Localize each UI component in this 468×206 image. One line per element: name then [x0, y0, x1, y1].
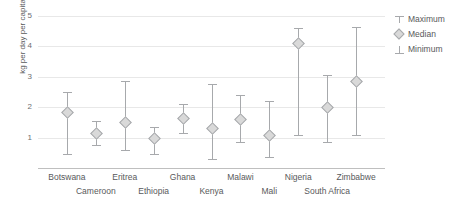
max-cap — [265, 101, 274, 102]
legend-label-maximum: Maximum — [408, 12, 445, 27]
median-marker — [148, 132, 161, 145]
y-axis-tick-label: 5 — [16, 12, 32, 20]
min-cap — [92, 145, 101, 146]
max-cap — [63, 92, 72, 93]
x-axis-label: Malawi — [227, 172, 253, 182]
median-marker — [235, 113, 248, 126]
y-axis-tick-label: 1 — [16, 134, 32, 142]
x-axis-label: Eritrea — [112, 172, 137, 182]
max-cap-icon — [394, 12, 405, 27]
x-axis-label: South Africa — [304, 186, 350, 196]
median-marker — [206, 123, 219, 136]
max-cap — [236, 95, 245, 96]
min-cap — [265, 157, 274, 158]
range-stem — [67, 92, 68, 154]
x-axis-label: Mali — [262, 186, 278, 196]
min-cap — [236, 142, 245, 143]
median-marker — [321, 101, 334, 114]
x-axis-label: Ethiopia — [138, 186, 169, 196]
median-marker — [177, 112, 190, 125]
max-cap — [208, 84, 217, 85]
max-cap — [179, 104, 188, 105]
x-axis-label: Nigeria — [285, 172, 312, 182]
legend-item-median: Median — [394, 27, 468, 42]
median-marker — [119, 117, 132, 130]
series-layer — [38, 16, 385, 168]
max-cap — [294, 28, 303, 29]
min-cap — [352, 135, 361, 136]
min-cap — [208, 159, 217, 160]
median-marker — [263, 129, 276, 142]
min-cap — [150, 154, 159, 155]
min-cap — [294, 135, 303, 136]
y-axis-tick-label: 3 — [16, 73, 32, 81]
plot-area — [38, 16, 385, 168]
min-cap — [121, 150, 130, 151]
median-marker — [90, 127, 103, 140]
y-axis-tick-label: 4 — [16, 42, 32, 50]
x-axis-labels: BotswanaCameroonEritreaEthiopiaGhanaKeny… — [38, 168, 385, 206]
min-cap — [63, 154, 72, 155]
max-cap — [150, 127, 159, 128]
legend: Maximum Median Minimum — [394, 12, 468, 57]
min-cap — [323, 142, 332, 143]
legend-label-median: Median — [408, 27, 436, 42]
max-cap — [121, 81, 130, 82]
median-marker — [350, 75, 363, 88]
x-axis-label: Zimbabwe — [336, 172, 375, 182]
legend-label-minimum: Minimum — [408, 42, 442, 57]
x-axis-label: Cameroon — [76, 186, 116, 196]
y-axis-tick-label: 2 — [16, 103, 32, 111]
min-cap-icon — [394, 42, 405, 57]
max-cap — [352, 27, 361, 28]
legend-item-maximum: Maximum — [394, 12, 468, 27]
max-cap — [323, 75, 332, 76]
median-marker — [292, 37, 305, 50]
diamond-icon — [394, 27, 405, 42]
max-cap — [92, 121, 101, 122]
x-axis-label: Botswana — [48, 172, 85, 182]
x-axis-label: Kenya — [199, 186, 223, 196]
legend-item-minimum: Minimum — [394, 42, 468, 57]
min-cap — [179, 133, 188, 134]
median-marker — [61, 106, 74, 119]
x-axis-label: Ghana — [170, 172, 196, 182]
range-chart: kg per day per capita 12345 BotswanaCame… — [0, 0, 468, 206]
